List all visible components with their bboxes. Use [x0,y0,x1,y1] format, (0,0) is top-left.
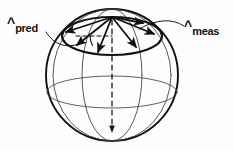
apex-point [111,16,113,18]
subscript-pred: pred [15,22,38,34]
label-n-hat-pred: ^pred [7,16,38,32]
figure-root: ^pred ^meas [0,0,234,151]
dashed-polar-axis-arrowhead [109,126,115,134]
hat-symbol-pred: ^ [7,15,15,31]
label-n-hat-meas: ^meas [184,19,219,35]
subscript-meas: meas [192,25,219,37]
hat-symbol-meas: ^ [184,18,192,34]
cone-half-angle-arc [90,36,93,46]
